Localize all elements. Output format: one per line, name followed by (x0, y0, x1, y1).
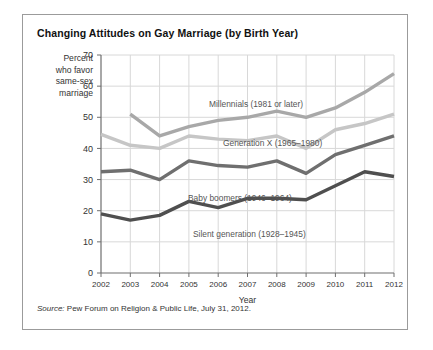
y-axis-tick-label: 70 (83, 50, 93, 60)
y-axis-tick-label: 20 (83, 206, 93, 216)
x-axis-tick-label: 2011 (356, 280, 374, 289)
x-axis-tick-label: 2006 (209, 280, 227, 289)
source-note: Source: Pew Forum on Religion & Public L… (37, 304, 251, 313)
y-axis-tick-label: 40 (83, 144, 93, 154)
x-axis-tick-label: 2003 (121, 280, 139, 289)
series-label-millennials-1981-or-later: Millennials (1981 or later) (209, 99, 303, 109)
x-axis-tick-label: 2010 (327, 280, 345, 289)
plot-area: 0102030405060702002200320042005200620072… (23, 15, 409, 331)
y-axis-tick-label: 0 (88, 268, 93, 278)
y-axis-tick-label: 30 (83, 175, 93, 185)
series-label-generation-x-1965-1980: Generation X (1965–1980) (223, 138, 322, 148)
y-axis-tick-label: 60 (83, 81, 93, 91)
x-axis-tick-label: 2009 (297, 280, 315, 289)
x-axis-tick-label: 2004 (151, 280, 169, 289)
series-label-silent-generation-1928-1945: Silent generation (1928–1945) (193, 229, 306, 239)
series-label-baby-boomers-1946-1964: Baby boomers (1946–1964) (188, 193, 292, 203)
x-axis-tick-label: 2005 (180, 280, 198, 289)
source-prefix: Source: (37, 304, 65, 313)
x-axis-tick-label: 2012 (385, 280, 403, 289)
chart-card: Changing Attitudes on Gay Marriage (by B… (22, 14, 408, 330)
y-axis-tick-label: 10 (83, 237, 93, 247)
x-axis-tick-label: 2007 (239, 280, 257, 289)
x-axis-tick-label: 2002 (92, 280, 110, 289)
source-text: Pew Forum on Religion & Public Life, Jul… (65, 304, 251, 313)
line-chart-svg: 0102030405060702002200320042005200620072… (23, 15, 409, 331)
x-axis-tick-label: 2008 (268, 280, 286, 289)
y-axis-tick-label: 50 (83, 112, 93, 122)
